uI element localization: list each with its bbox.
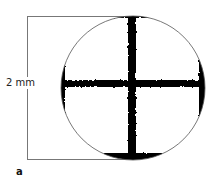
figure-panel-a: 2 mm a <box>0 0 215 179</box>
diagram-svg <box>0 0 215 179</box>
dimension-label: 2 mm <box>5 77 36 89</box>
panel-label: a <box>16 167 23 177</box>
sample-disc <box>58 13 208 164</box>
